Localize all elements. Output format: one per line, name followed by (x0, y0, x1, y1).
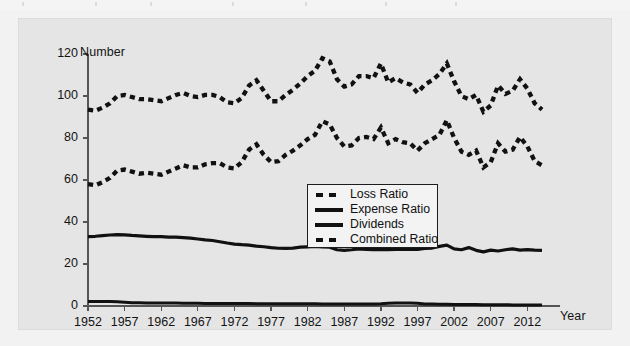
y-tick-label: 80 (44, 130, 78, 144)
legend-label: Combined Ratio (350, 233, 438, 245)
plot-svg (19, 19, 613, 331)
y-tick-label: 0 (44, 298, 78, 312)
plot-area (19, 19, 613, 331)
chart-panel: Number Year 020406080100120 195219571962… (18, 18, 612, 330)
legend-solid-swatch-icon (315, 204, 343, 215)
y-tick-label: 100 (44, 88, 78, 102)
series-dividends (88, 301, 542, 305)
y-tick-label: 60 (44, 172, 78, 186)
legend-item-expense-ratio: Expense Ratio (315, 202, 430, 217)
series-combined-ratio (88, 58, 542, 112)
chart-legend: Loss Ratio Expense Ratio Dividends Combi… (307, 184, 438, 248)
legend-label: Expense Ratio (350, 203, 430, 215)
legend-dash-swatch-icon (315, 234, 343, 245)
x-axis-title: Year (560, 309, 586, 323)
x-tick-label: 2012 (505, 315, 549, 329)
legend-item-combined-ratio: Combined Ratio (315, 232, 438, 247)
legend-solid-swatch-icon (315, 219, 343, 230)
y-axis-title: Number (80, 45, 125, 59)
scan-artifact-strip (0, 0, 630, 10)
legend-label: Dividends (350, 218, 404, 230)
y-tick-label: 40 (44, 214, 78, 228)
legend-dash-swatch-icon (315, 189, 343, 200)
y-tick-label: 20 (44, 256, 78, 270)
series-loss-ratio (88, 120, 542, 185)
chart-screenshot: Number Year 020406080100120 195219571962… (0, 0, 630, 346)
legend-item-loss-ratio: Loss Ratio (315, 187, 408, 202)
legend-item-dividends: Dividends (315, 217, 404, 232)
legend-label: Loss Ratio (350, 188, 408, 200)
y-tick-label: 120 (44, 46, 78, 60)
